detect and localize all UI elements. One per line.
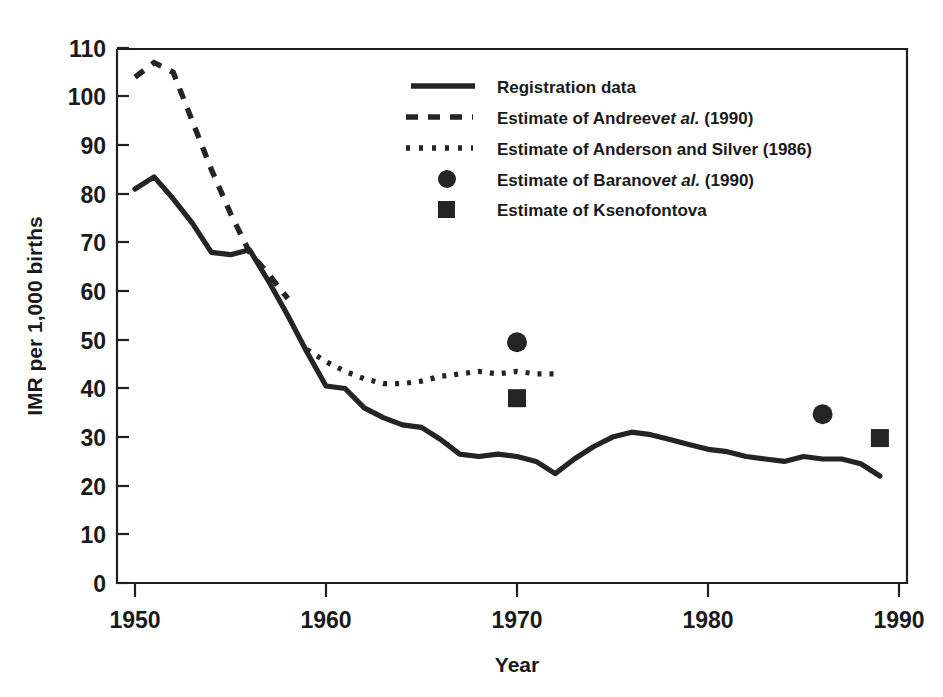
legend-item-ksenofontova: Estimate of Ksenofontova: [497, 201, 707, 220]
series-registration-data: [135, 177, 880, 476]
legend-item-anderson-silver: Estimate of Anderson and Silver (1986): [497, 140, 812, 159]
y-axis-tick-labels: 110 100 90 80 70 60 50 40 30 20 10 0: [68, 36, 106, 597]
chart-legend: Registration data Estimate of Andreevet …: [406, 78, 812, 220]
legend-item-andreev: Estimate of Andreevet al. (1990): [497, 109, 753, 128]
y-axis-title: IMR per 1,000 births: [23, 216, 46, 416]
series-anderson-silver-estimate: [307, 350, 555, 384]
marker-ksenofontova-point: [508, 389, 526, 407]
y-tick-label-60: 60: [80, 279, 106, 305]
legend-item-baranov: Estimate of Baranovet al. (1990): [497, 171, 754, 190]
y-tick-label-90: 90: [80, 133, 106, 159]
y-tick-label-70: 70: [80, 230, 106, 256]
y-tick-label-10: 10: [80, 522, 106, 548]
y-tick-label-50: 50: [80, 328, 106, 354]
y-tick-label-30: 30: [80, 425, 106, 451]
plot-frame: [117, 49, 907, 583]
y-axis-ticks: [117, 48, 129, 583]
x-tick-label-1960: 1960: [300, 607, 351, 633]
y-tick-label-0: 0: [93, 571, 106, 597]
x-tick-label-1970: 1970: [491, 607, 542, 633]
legend-item-registration: Registration data: [497, 78, 636, 97]
legend-swatch-filled-square: [438, 201, 455, 218]
series-baranov-markers: [507, 332, 833, 424]
y-tick-label-100: 100: [68, 84, 106, 110]
imr-line-chart: 110 100 90 80 70 60 50 40 30 20 10 0 195…: [0, 0, 943, 697]
x-axis-title: Year: [495, 653, 539, 676]
x-axis-tick-labels: 1950 1960 1970 1980 1990: [109, 607, 924, 633]
y-tick-label-40: 40: [80, 376, 106, 402]
marker-ksenofontova-point: [871, 429, 889, 447]
y-tick-label-20: 20: [80, 474, 106, 500]
marker-baranov-point: [813, 404, 833, 424]
marker-baranov-point: [507, 332, 527, 352]
x-tick-label-1980: 1980: [682, 607, 733, 633]
x-tick-label-1950: 1950: [109, 607, 160, 633]
x-axis-ticks: [135, 583, 899, 597]
y-tick-label-110: 110: [69, 36, 106, 62]
y-tick-label-80: 80: [80, 182, 106, 208]
legend-swatch-filled-circle: [438, 170, 456, 188]
x-tick-label-1990: 1990: [873, 607, 924, 633]
chart-page: 110 100 90 80 70 60 50 40 30 20 10 0 195…: [0, 0, 943, 697]
